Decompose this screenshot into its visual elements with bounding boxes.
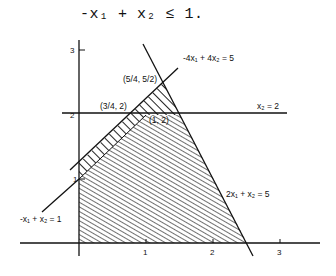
y-tick-3: 3	[70, 46, 75, 55]
point-label-3-4-2: (3/4, 2)	[100, 101, 127, 111]
point-label-5-4-5-2: (5/4, 5/2)	[123, 74, 157, 84]
point-label-1-2: (1, 2)	[149, 115, 169, 125]
line-x1-x2-eq-1	[42, 179, 79, 212]
label-line-4x1-4x2: -4x₁ + 4x₂ = 5	[183, 53, 234, 63]
x-tick-1: 1	[143, 248, 148, 257]
x-tick-3: 3	[277, 248, 282, 257]
region-main	[79, 115, 247, 243]
feasible-region-diagram: 1 2 3 1 2 3 -4x₁ + 4x₂ = 5 x₂ = 2 2x₁ + …	[0, 0, 336, 276]
x-tick-2: 2	[210, 248, 215, 257]
label-line-x2-2: x₂ = 2	[257, 101, 279, 111]
label-line-x1-x2-1: -x₁ + x₂ = 1	[20, 214, 62, 224]
label-line-2x1-x2: 2x₁ + x₂ = 5	[226, 189, 270, 199]
